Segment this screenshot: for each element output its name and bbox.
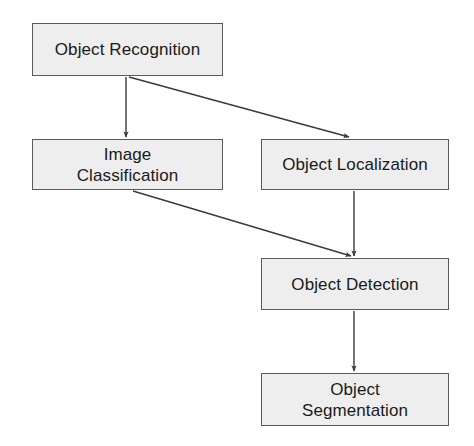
node-image-classification[interactable]: Image Classification xyxy=(32,139,223,190)
node-label-object-localization: Object Localization xyxy=(262,154,448,175)
node-object-detection[interactable]: Object Detection xyxy=(261,258,449,310)
node-label-object-recognition: Object Recognition xyxy=(33,39,222,60)
node-object-segmentation[interactable]: Object Segmentation xyxy=(261,373,449,426)
edge-classification-to-detection xyxy=(133,191,351,256)
node-object-localization[interactable]: Object Localization xyxy=(261,139,449,190)
node-label-object-segmentation: Object Segmentation xyxy=(262,379,448,421)
edge-group xyxy=(126,77,354,371)
diagram-canvas: Object Recognition Image Classification … xyxy=(0,0,474,446)
node-label-image-classification: Image Classification xyxy=(33,144,222,186)
node-label-object-detection: Object Detection xyxy=(262,274,448,295)
node-object-recognition[interactable]: Object Recognition xyxy=(32,23,223,76)
edge-recognition-to-localization xyxy=(129,77,349,137)
